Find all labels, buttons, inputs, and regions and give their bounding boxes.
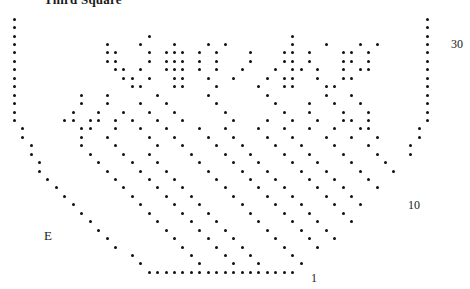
chart-cell[interactable] — [52, 66, 60, 74]
chart-cell[interactable] — [103, 133, 111, 141]
chart-cell[interactable] — [94, 99, 102, 107]
chart-cell[interactable] — [137, 91, 145, 99]
chart-cell[interactable] — [356, 32, 364, 40]
chart-cell[interactable] — [204, 66, 212, 74]
chart-cell[interactable] — [137, 158, 145, 166]
chart-cell[interactable] — [246, 158, 254, 166]
chart-cell[interactable] — [331, 133, 339, 141]
chart-cell[interactable] — [27, 57, 35, 65]
chart-cell[interactable] — [398, 150, 406, 158]
chart-cell[interactable] — [356, 125, 364, 133]
chart-cell[interactable] — [305, 40, 313, 48]
chart-cell[interactable] — [35, 158, 43, 166]
chart-cell[interactable] — [27, 23, 35, 31]
chart-cell[interactable] — [255, 15, 263, 23]
chart-cell[interactable] — [415, 133, 423, 141]
chart-cell[interactable] — [246, 15, 254, 23]
chart-cell[interactable] — [364, 108, 372, 116]
chart-cell[interactable] — [137, 150, 145, 158]
chart-cell[interactable] — [86, 209, 94, 217]
chart-cell[interactable] — [246, 133, 254, 141]
chart-cell[interactable] — [221, 99, 229, 107]
chart-cell[interactable] — [229, 66, 237, 74]
chart-cell[interactable] — [398, 91, 406, 99]
chart-cell[interactable] — [120, 243, 128, 251]
chart-cell[interactable] — [339, 116, 347, 124]
chart-cell[interactable] — [52, 57, 60, 65]
chart-cell[interactable] — [86, 40, 94, 48]
chart-cell[interactable] — [272, 260, 280, 268]
chart-cell[interactable] — [86, 15, 94, 23]
chart-cell[interactable] — [221, 167, 229, 175]
chart-cell[interactable] — [18, 57, 26, 65]
chart-cell[interactable] — [255, 83, 263, 91]
chart-cell[interactable] — [348, 167, 356, 175]
chart-cell[interactable] — [297, 40, 305, 48]
chart-cell[interactable] — [94, 116, 102, 124]
chart-cell[interactable] — [229, 209, 237, 217]
chart-cell[interactable] — [94, 49, 102, 57]
chart-cell[interactable] — [314, 209, 322, 217]
chart-cell[interactable] — [170, 108, 178, 116]
chart-cell[interactable] — [103, 23, 111, 31]
chart-cell[interactable] — [111, 209, 119, 217]
chart-cell[interactable] — [229, 74, 237, 82]
chart-cell[interactable] — [137, 99, 145, 107]
chart-cell[interactable] — [162, 57, 170, 65]
chart-cell[interactable] — [263, 251, 271, 259]
chart-cell[interactable] — [221, 268, 229, 276]
chart-cell[interactable] — [322, 243, 330, 251]
chart-cell[interactable] — [18, 91, 26, 99]
chart-cell[interactable] — [120, 218, 128, 226]
chart-cell[interactable] — [153, 99, 161, 107]
chart-cell[interactable] — [44, 133, 52, 141]
chart-cell[interactable] — [153, 83, 161, 91]
chart-cell[interactable] — [229, 218, 237, 226]
chart-cell[interactable] — [407, 108, 415, 116]
chart-cell[interactable] — [162, 184, 170, 192]
chart-cell[interactable] — [204, 251, 212, 259]
chart-cell[interactable] — [356, 150, 364, 158]
chart-cell[interactable] — [356, 184, 364, 192]
chart-cell[interactable] — [364, 116, 372, 124]
chart-cell[interactable] — [356, 40, 364, 48]
chart-cell[interactable] — [213, 66, 221, 74]
chart-cell[interactable] — [263, 260, 271, 268]
chart-cell[interactable] — [86, 218, 94, 226]
chart-cell[interactable] — [288, 167, 296, 175]
chart-cell[interactable] — [238, 150, 246, 158]
chart-cell[interactable] — [153, 234, 161, 242]
chart-cell[interactable] — [263, 226, 271, 234]
chart-cell[interactable] — [288, 66, 296, 74]
chart-cell[interactable] — [78, 116, 86, 124]
chart-cell[interactable] — [78, 201, 86, 209]
chart-cell[interactable] — [331, 234, 339, 242]
chart-cell[interactable] — [179, 243, 187, 251]
chart-cell[interactable] — [297, 116, 305, 124]
chart-cell[interactable] — [280, 218, 288, 226]
chart-cell[interactable] — [221, 125, 229, 133]
chart-cell[interactable] — [187, 108, 195, 116]
chart-cell[interactable] — [272, 40, 280, 48]
chart-cell[interactable] — [398, 15, 406, 23]
chart-cell[interactable] — [27, 133, 35, 141]
chart-cell[interactable] — [339, 15, 347, 23]
chart-cell[interactable] — [52, 23, 60, 31]
chart-cell[interactable] — [137, 32, 145, 40]
chart-cell[interactable] — [137, 243, 145, 251]
chart-cell[interactable] — [263, 150, 271, 158]
chart-cell[interactable] — [153, 15, 161, 23]
chart-cell[interactable] — [390, 150, 398, 158]
chart-cell[interactable] — [305, 234, 313, 242]
chart-cell[interactable] — [221, 184, 229, 192]
chart-cell[interactable] — [179, 167, 187, 175]
chart-cell[interactable] — [128, 234, 136, 242]
chart-cell[interactable] — [272, 83, 280, 91]
chart-cell[interactable] — [145, 167, 153, 175]
chart-cell[interactable] — [331, 74, 339, 82]
chart-cell[interactable] — [120, 74, 128, 82]
chart-cell[interactable] — [120, 66, 128, 74]
chart-cell[interactable] — [61, 49, 69, 57]
chart-cell[interactable] — [213, 99, 221, 107]
chart-cell[interactable] — [27, 74, 35, 82]
